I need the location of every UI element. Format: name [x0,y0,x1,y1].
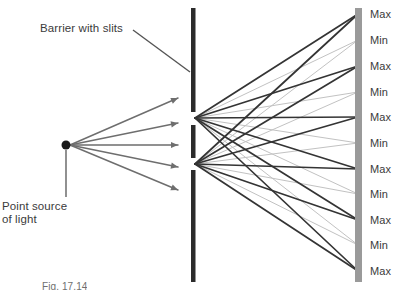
figure-caption: Fig. 17.14 [42,281,87,290]
barrier-group [191,8,196,282]
min-ray-7-0 [195,118,358,194]
point-source-group [62,141,71,150]
source-ray-4 [70,145,178,190]
leader-lines-group [66,30,190,197]
source-ray-arrowhead-1 [171,121,178,127]
source-ray-0 [70,98,178,145]
screen-label-maximum-4: Max [370,111,391,123]
screen-label-minimum-7: Min [370,188,388,200]
barrier-segment-0 [191,8,196,112]
barrier-segment-2 [191,170,196,282]
point-source-dot [62,141,71,150]
min-ray-5-0 [195,118,358,143]
source-ray-1 [70,123,178,145]
screen-label-minimum-5: Min [370,137,388,149]
barrier-segment-1 [191,125,196,158]
screen-label-maximum-10: Max [370,265,391,277]
max-ray-8-1 [195,164,358,220]
source-ray-arrowhead-3 [171,163,178,169]
max-ray-4-0 [195,117,358,118]
point-source-label: Point source of light [2,200,67,226]
screen-label-minimum-3: Min [370,86,388,98]
source-ray-arrowhead-2 [171,142,178,148]
screen-label-maximum-8: Max [370,214,391,226]
screen-label-minimum-9: Min [370,239,388,251]
min-ray-1-0 [195,40,358,118]
source-rays-group [70,98,178,190]
detection-screen [355,8,362,282]
screen-label-maximum-0: Max [370,8,391,20]
max-ray-10-1 [195,164,358,271]
screen-group [355,8,362,282]
interference-diagram [0,0,401,290]
point-source-label-line1: Point source [2,200,67,212]
source-ray-3 [70,145,178,167]
barrier-label: Barrier with slits [40,22,123,34]
point-source-label-line2: of light [2,213,37,225]
max-ray-2-1 [195,66,358,164]
screen-label-maximum-2: Max [370,60,391,72]
barrier-label-leader [133,30,190,72]
max-ray-2-0 [195,66,358,118]
min-ray-9-0 [195,118,358,245]
screen-label-minimum-1: Min [370,34,388,46]
screen-label-maximum-6: Max [370,163,391,175]
